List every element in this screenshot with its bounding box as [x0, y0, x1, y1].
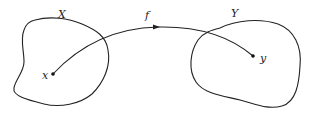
diagram-svg: X x f Y y [0, 0, 314, 116]
mapping-arrow-f [53, 27, 253, 74]
function-mapping-diagram: X x f Y y [0, 0, 314, 116]
set-y-blob [191, 21, 300, 108]
set-y-label: Y [231, 7, 240, 20]
point-x-label: x [42, 69, 49, 82]
set-x-blob [14, 18, 109, 106]
point-y-label: y [259, 52, 267, 65]
arrow-f-label: f [144, 9, 151, 22]
set-x-label: X [57, 8, 67, 21]
arrowhead-icon [153, 25, 160, 30]
point-y-dot [251, 54, 255, 58]
